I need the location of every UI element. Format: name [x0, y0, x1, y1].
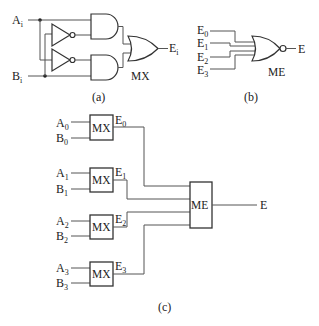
mx-block-2: A2 B2 MX E2 — [56, 212, 126, 245]
inverter-gate-icon — [52, 24, 70, 46]
inverter-gate-icon — [52, 49, 70, 71]
wire-e0 — [210, 31, 256, 42]
figure-c-4bit-comparator: A0 B0 MX E0 A1 B1 MX E1 A2 B2 MX — [56, 113, 267, 314]
output-ei-label: Ei — [169, 41, 179, 57]
input-b2-label: B2 — [56, 229, 68, 245]
output-e-final-label: E — [260, 198, 267, 212]
output-e-label: E — [298, 42, 305, 56]
wire-e2 — [210, 51, 256, 57]
wire-e1-to-me — [113, 180, 190, 199]
me-box-label: ME — [191, 199, 208, 211]
mx-block-0: A0 B0 MX E0 — [56, 113, 126, 147]
comparator-circuit-figure: Ai Bi Ei MX (a) — [0, 0, 319, 326]
wire-a-to-inv2 — [40, 20, 52, 60]
caption-a: (a) — [92, 90, 105, 104]
mx-box-label: MX — [92, 174, 111, 186]
figure-b-me-nor: E0 E1 E2 E3 E ME (b) — [197, 23, 305, 104]
input-b3-label: B3 — [56, 276, 68, 292]
mx-box-label: MX — [92, 221, 111, 233]
input-a0-label: A0 — [56, 116, 69, 132]
and-gate-icon — [91, 55, 118, 80]
and-gate-icon — [91, 14, 118, 39]
mx-gate-label: MX — [131, 70, 150, 82]
figure-a-mx-bit-comparator: Ai Bi Ei MX (a) — [12, 13, 179, 104]
output-e3-label: E3 — [115, 259, 126, 275]
input-b-label: Bi — [12, 69, 23, 85]
input-a2-label: A2 — [56, 214, 69, 230]
caption-c: (c) — [158, 300, 171, 314]
input-b0-label: B0 — [56, 131, 68, 147]
inverter-bubble — [70, 33, 75, 38]
input-a1-label: A1 — [56, 166, 69, 182]
me-gate-label: ME — [268, 66, 285, 78]
caption-b: (b) — [244, 90, 258, 104]
nor-bubble — [280, 46, 286, 52]
mx-block-1: A1 B1 MX E1 — [56, 165, 126, 198]
output-e1-label: E1 — [115, 165, 126, 181]
input-b1-label: B1 — [56, 182, 68, 198]
input-a3-label: A3 — [56, 261, 69, 277]
nor-gate-icon — [252, 36, 280, 61]
mx-box-label: MX — [92, 122, 111, 134]
inverter-bubble — [70, 58, 75, 63]
wire-e1 — [210, 43, 256, 46]
wire-and1-to-or — [118, 27, 131, 45]
wire-b-to-inv1 — [45, 34, 52, 76]
mx-block-3: A3 B3 MX E3 — [56, 259, 126, 292]
input-a-label: Ai — [12, 13, 24, 29]
mx-box-label: MX — [92, 268, 111, 280]
output-e2-label: E2 — [115, 212, 126, 228]
or-gate-icon — [128, 36, 158, 61]
